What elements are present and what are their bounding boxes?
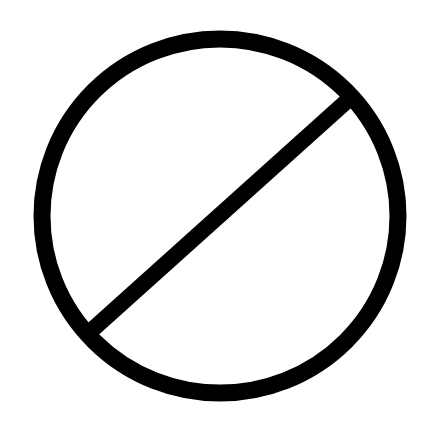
prohibition-slash (92, 100, 348, 330)
no-symbol-icon (0, 0, 431, 429)
